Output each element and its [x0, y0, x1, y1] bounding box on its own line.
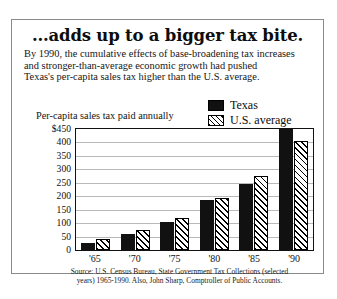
bar-group — [81, 129, 110, 250]
y-tick-label: 150 — [57, 203, 71, 214]
y-tick-label: 250 — [57, 176, 71, 187]
y-axis-ticks: 050100150200250300350400$450 — [31, 128, 71, 251]
diagonal-hatch-swatch-icon — [208, 115, 224, 126]
plot-area — [75, 128, 314, 251]
y-tick-label: 200 — [57, 190, 71, 201]
x-tick-label: '75 — [159, 253, 190, 267]
source-note: Source: U.S. Census Bureau, State Govern… — [42, 268, 317, 285]
y-tick-label: 50 — [61, 230, 71, 241]
y-axis-caption: Per-capita sales tax paid annually — [36, 110, 174, 121]
chart-legend: Texas U.S. average — [208, 98, 328, 128]
bar-texas — [239, 184, 253, 250]
y-tick-label: 100 — [57, 217, 71, 228]
chart-figure: ...adds up to a bigger tax bite. By 1990… — [11, 19, 324, 274]
x-tick-label: '70 — [119, 253, 150, 267]
x-axis-ticks: '65'70'75'80'85'90 — [75, 253, 314, 267]
bar-texas — [279, 129, 293, 250]
y-tick-label: 0 — [66, 244, 71, 255]
y-tick-label: 350 — [57, 149, 71, 160]
y-tick-label: 300 — [57, 163, 71, 174]
legend-label-texas: Texas — [230, 98, 258, 113]
bar-texas — [81, 243, 95, 250]
bar-us-average — [96, 239, 110, 250]
bar-group — [279, 129, 308, 250]
bar-us-average — [294, 141, 308, 250]
subtitle-line-1: By 1990, the cumulative effects of base-… — [24, 48, 311, 60]
page-title: ...adds up to a bigger tax bite. — [12, 26, 323, 45]
legend-label-us-average: U.S. average — [230, 113, 292, 128]
bar-us-average — [175, 218, 189, 250]
x-tick-label: '90 — [279, 253, 310, 267]
solid-black-swatch-icon — [208, 100, 224, 111]
x-tick-label: '80 — [199, 253, 230, 267]
y-tick-label: 400 — [57, 136, 71, 147]
bar-group — [239, 129, 268, 250]
legend-item-us-average: U.S. average — [208, 113, 328, 127]
bar-texas — [121, 234, 135, 250]
bar-group — [200, 129, 229, 250]
bar-us-average — [136, 230, 150, 250]
subtitle: By 1990, the cumulative effects of base-… — [24, 48, 311, 83]
bar-texas — [200, 200, 214, 250]
subtitle-line-2: and stronger-than-average economic growt… — [24, 60, 311, 72]
bar-groups — [76, 129, 313, 250]
subtitle-line-3: Texas's per-capita sales tax higher than… — [24, 71, 311, 83]
bar-group — [121, 129, 150, 250]
plot-area-wrapper: 050100150200250300350400$450 '65'70'75'8… — [31, 128, 314, 265]
bar-texas — [160, 222, 174, 250]
source-line-2: years) 1965-1990. Also, John Sharp, Comp… — [42, 277, 317, 286]
x-tick-label: '85 — [239, 253, 270, 267]
legend-item-texas: Texas — [208, 98, 328, 112]
bar-us-average — [215, 198, 229, 250]
x-tick-label: '65 — [79, 253, 110, 267]
bar-group — [160, 129, 189, 250]
y-tick-label: $450 — [52, 123, 71, 134]
bar-us-average — [254, 176, 268, 250]
